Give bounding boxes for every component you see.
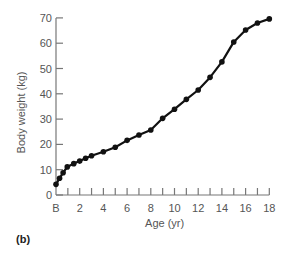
data-point (53, 182, 59, 188)
x-axis-title: Age (yr) (145, 217, 184, 229)
data-point (195, 87, 201, 93)
x-tick-label: 16 (239, 202, 251, 214)
data-point (231, 39, 237, 45)
data-point (136, 132, 142, 138)
x-tick-label: B (52, 202, 59, 214)
x-tick-label: 12 (192, 202, 204, 214)
y-tick-label: 10 (40, 164, 52, 176)
x-axis: B24681012141618 (52, 188, 275, 214)
data-point (112, 144, 118, 150)
x-tick-label: 8 (148, 202, 154, 214)
y-tick-label: 50 (40, 63, 52, 75)
y-tick-label: 0 (46, 189, 52, 201)
data-point (148, 127, 154, 133)
data-point (172, 106, 178, 112)
y-tick-label: 30 (40, 113, 52, 125)
data-point (83, 156, 89, 162)
data-point (160, 116, 166, 122)
data-point (255, 20, 261, 26)
y-tick-label: 20 (40, 138, 52, 150)
y-tick-label: 60 (40, 37, 52, 49)
data-point (60, 170, 66, 176)
x-tick-label: 2 (77, 202, 83, 214)
growth-chart: 010203040506070 B24681012141618 Body wei… (0, 0, 288, 253)
data-point (77, 158, 83, 164)
data-point (64, 164, 70, 170)
data-point (207, 75, 213, 81)
data-point (267, 16, 273, 22)
data-point (101, 149, 107, 155)
y-axis-title: Body weight (kg) (15, 71, 27, 153)
x-tick-label: 18 (263, 202, 275, 214)
data-point (243, 27, 249, 33)
data-point (124, 138, 130, 144)
panel-label: (b) (16, 233, 30, 245)
data-series (53, 16, 272, 187)
x-tick-label: 6 (124, 202, 130, 214)
data-point (219, 59, 225, 65)
x-tick-label: 14 (216, 202, 228, 214)
y-axis: 010203040506070 (40, 12, 63, 201)
data-point (71, 161, 77, 167)
y-tick-label: 40 (40, 88, 52, 100)
data-point (57, 176, 63, 182)
x-tick-label: 4 (100, 202, 106, 214)
data-point (184, 97, 190, 103)
x-tick-label: 10 (168, 202, 180, 214)
y-tick-label: 70 (40, 12, 52, 24)
data-point (89, 153, 95, 159)
